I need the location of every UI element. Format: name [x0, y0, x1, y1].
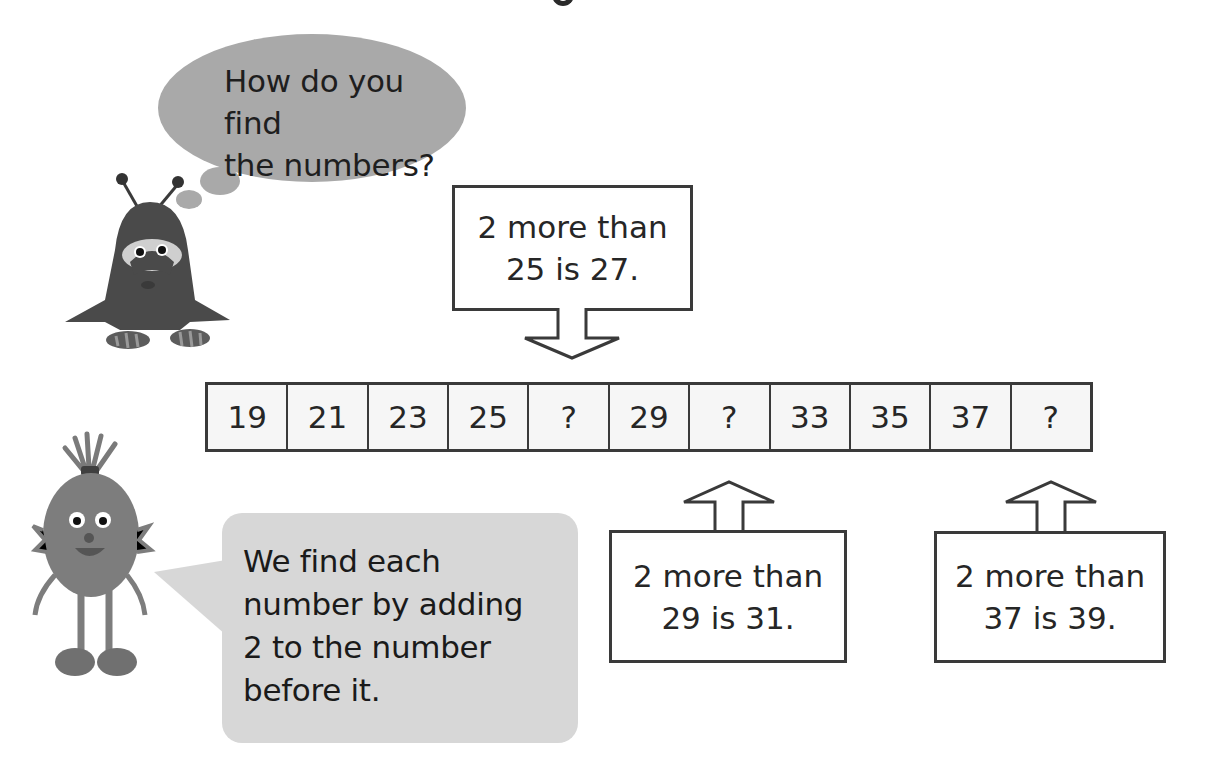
speech-line-1: We find each [243, 540, 573, 583]
dark-monster-icon [60, 170, 235, 350]
speech-line-2: number by adding [243, 583, 573, 626]
hint-line-1: 2 more than [937, 555, 1163, 597]
fuzzy-monster-icon [25, 430, 160, 680]
sequence-cell: 19 [208, 385, 288, 449]
speech-bubble-tail [150, 560, 230, 640]
sequence-cell-missing: ? [529, 385, 609, 449]
hint-line-2: 29 is 31. [612, 597, 844, 639]
thought-bubble-text: How do you find the numbers? [224, 60, 464, 186]
speech-line-4: before it. [243, 669, 573, 712]
sequence-cell: 37 [931, 385, 1011, 449]
sequence-cell: 29 [610, 385, 690, 449]
speech-bubble-text: We find each number by adding 2 to the n… [243, 540, 573, 712]
sequence-cell-missing: ? [690, 385, 770, 449]
hint-box-37-to-39: 2 more than 37 is 39. [934, 531, 1166, 663]
thought-line-1: How do you find [224, 60, 464, 144]
hint-line-1: 2 more than [455, 206, 690, 248]
sequence-cell-missing: ? [1012, 385, 1090, 449]
heading-fragment [552, 0, 574, 6]
hint-box-25-to-27: 2 more than 25 is 27. [452, 185, 693, 311]
number-sequence-strip: 19 21 23 25 ? 29 ? 33 35 37 ? [205, 382, 1093, 452]
speech-line-3: 2 to the number [243, 626, 573, 669]
arrow-down-icon [522, 308, 622, 360]
sequence-cell: 23 [369, 385, 449, 449]
thought-line-2: the numbers? [224, 144, 464, 186]
hint-box-29-to-31: 2 more than 29 is 31. [609, 530, 847, 663]
sequence-cell: 25 [449, 385, 529, 449]
hint-line-2: 25 is 27. [455, 248, 690, 290]
arrow-up-icon [681, 480, 777, 534]
sequence-cell: 35 [851, 385, 931, 449]
sequence-cell: 21 [288, 385, 368, 449]
sequence-cell: 33 [771, 385, 851, 449]
hint-line-2: 37 is 39. [937, 597, 1163, 639]
hint-line-1: 2 more than [612, 555, 844, 597]
arrow-up-icon [1003, 480, 1099, 534]
